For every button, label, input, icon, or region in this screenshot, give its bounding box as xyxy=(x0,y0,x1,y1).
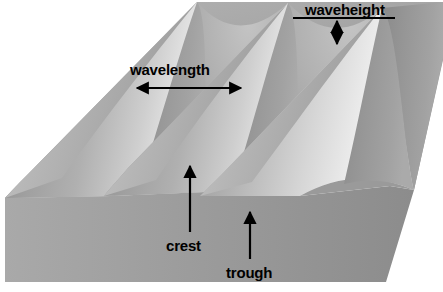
crest-label: crest xyxy=(166,238,201,253)
water-block xyxy=(5,2,443,282)
block-front-face xyxy=(5,186,414,282)
trough-label: trough xyxy=(226,265,272,280)
wave-diagram-canvas xyxy=(0,0,443,292)
wavelength-label: wavelength xyxy=(130,62,210,77)
wave-diagram-figure: wavelength waveheight crest trough xyxy=(0,0,443,292)
waveheight-label: waveheight xyxy=(305,2,385,17)
